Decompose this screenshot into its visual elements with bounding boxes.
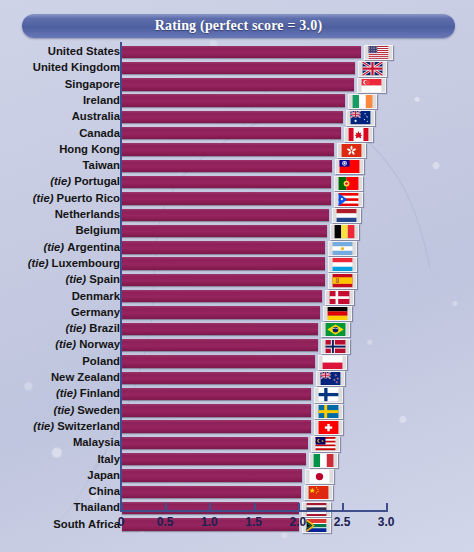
tie-marker: (tie) xyxy=(56,387,80,399)
chart-row: (tie) Brazil xyxy=(0,321,474,337)
x-axis-tick-label: 0 xyxy=(101,515,141,529)
country-name: China xyxy=(89,485,120,497)
rating-bar xyxy=(122,453,306,465)
country-name: Thailand xyxy=(74,501,120,513)
country-label: (tie) Spain xyxy=(0,272,120,288)
tie-marker: (tie) xyxy=(53,404,77,416)
country-label: Hong Kong xyxy=(0,142,120,158)
chart-row: Japan xyxy=(0,468,474,484)
flag-hong-kong-icon xyxy=(337,143,366,158)
flag-canada-icon xyxy=(344,127,373,142)
chart-row: Australia xyxy=(0,109,474,125)
country-label: (tie) Brazil xyxy=(0,321,120,337)
rating-bar xyxy=(122,388,311,400)
flag-norway-icon xyxy=(321,339,350,354)
chart-row: Belgium xyxy=(0,223,474,239)
country-label: Germany xyxy=(0,305,120,321)
tie-marker: (tie) xyxy=(33,420,57,432)
country-name: Brazil xyxy=(89,322,120,334)
country-label: Japan xyxy=(0,468,120,484)
chart-row: Canada xyxy=(0,126,474,142)
country-name: Ireland xyxy=(83,94,120,106)
flag-taiwan-icon xyxy=(335,159,364,174)
country-name: Australia xyxy=(72,110,120,122)
country-label: (tie) Puerto Rico xyxy=(0,191,120,207)
chart-row: United States xyxy=(0,44,474,60)
country-label: Netherlands xyxy=(0,207,120,223)
x-axis-tick xyxy=(165,503,167,512)
chart-row: Netherlands xyxy=(0,207,474,223)
country-name: Finland xyxy=(80,387,120,399)
x-axis-tick xyxy=(298,503,300,512)
x-axis-tick-label: 3.0 xyxy=(366,515,406,529)
chart-row: (tie) Spain xyxy=(0,272,474,288)
chart-row: (tie) Puerto Rico xyxy=(0,191,474,207)
chart-row: (tie) Sweden xyxy=(0,403,474,419)
country-label: Ireland xyxy=(0,93,120,109)
country-label: China xyxy=(0,484,120,500)
flag-japan-icon xyxy=(305,469,334,484)
chart-row: China xyxy=(0,484,474,500)
x-axis-tick-label: 2.0 xyxy=(278,515,318,529)
rating-bar xyxy=(122,46,361,58)
rating-bar xyxy=(122,323,318,335)
chart-row: (tie) Switzerland xyxy=(0,419,474,435)
rating-bar xyxy=(122,290,322,302)
chart-title-banner: Rating (perfect score = 3.0) xyxy=(22,14,455,38)
flag-spain-icon xyxy=(328,273,357,288)
flag-italy-icon xyxy=(309,453,338,468)
flag-australia-icon xyxy=(346,110,375,125)
tie-marker: (tie) xyxy=(55,338,79,350)
x-axis-tick-label: 1.0 xyxy=(189,515,229,529)
x-axis-tick xyxy=(342,503,344,512)
country-label: (tie) Switzerland xyxy=(0,419,120,435)
rating-bar xyxy=(122,241,325,253)
rating-bar xyxy=(122,160,332,172)
rating-bar xyxy=(122,437,308,449)
rating-bar xyxy=(122,404,311,416)
chart-row: Denmark xyxy=(0,289,474,305)
tie-marker: (tie) xyxy=(65,322,89,334)
tie-marker: (tie) xyxy=(28,257,52,269)
country-name: Belgium xyxy=(75,224,120,236)
x-axis-tick xyxy=(386,503,388,512)
country-label: (tie) Portugal xyxy=(0,174,120,190)
country-name: New Zealand xyxy=(51,371,120,383)
rating-bar xyxy=(122,274,325,286)
chart-row: New Zealand xyxy=(0,370,474,386)
country-label: United Kingdom xyxy=(0,60,120,76)
rating-bar xyxy=(122,486,301,498)
country-name: Singapore xyxy=(65,78,120,90)
country-label: Singapore xyxy=(0,77,120,93)
flag-malaysia-icon xyxy=(311,436,340,451)
rating-bar xyxy=(122,176,331,188)
country-label: Denmark xyxy=(0,289,120,305)
country-name: Norway xyxy=(79,338,120,350)
flag-puerto-rico-icon xyxy=(334,192,363,207)
country-name: United States xyxy=(48,45,120,57)
country-name: Hong Kong xyxy=(59,143,120,155)
flag-poland-icon xyxy=(318,355,347,370)
country-name: Germany xyxy=(71,306,120,318)
chart-row: Italy xyxy=(0,452,474,468)
country-name: Japan xyxy=(87,469,120,481)
rating-bar xyxy=(122,339,318,351)
rating-bar xyxy=(122,469,302,481)
rating-bar xyxy=(122,306,320,318)
rating-bar xyxy=(122,209,329,221)
country-label: Australia xyxy=(0,109,120,125)
flag-luxembourg-icon xyxy=(328,257,357,272)
rating-bar xyxy=(122,355,315,367)
country-name: Puerto Rico xyxy=(57,192,120,204)
chart-page: Rating (perfect score = 3.0) United Stat… xyxy=(0,0,474,552)
y-axis-line xyxy=(120,42,122,512)
flag-sweden-icon xyxy=(314,404,343,419)
country-name: Netherlands xyxy=(55,208,120,220)
rating-bar xyxy=(122,94,345,106)
country-label: Poland xyxy=(0,354,120,370)
country-name: Switzerland xyxy=(57,420,120,432)
chart-row: Ireland xyxy=(0,93,474,109)
tie-marker: (tie) xyxy=(65,273,89,285)
country-name: Denmark xyxy=(72,290,120,302)
country-label: United States xyxy=(0,44,120,60)
